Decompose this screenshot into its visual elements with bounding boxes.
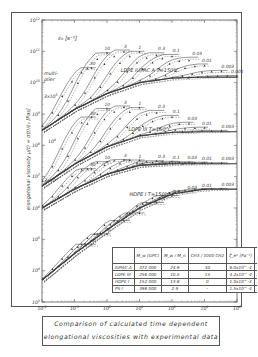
y-axis-label: elongational viscosity μ(t) = σ(t)/ε̇₀ […: [25, 108, 32, 210]
cell-ch3: 0: [188, 278, 227, 285]
strain-rate-label: 10: [105, 227, 111, 232]
cell-ch3: 30: [188, 264, 227, 271]
experimental-point: [104, 118, 106, 120]
cell-zeta: 1.5x10^-4: [227, 285, 255, 292]
calculated-curve-dashed: [44, 112, 166, 188]
experimental-point: [87, 123, 89, 125]
svg-text:107: 107: [32, 173, 41, 179]
cell-mw: 398 000: [134, 285, 161, 292]
strain-rate-label: 0.003: [222, 156, 235, 161]
strain-rate-label: 0.003: [222, 182, 235, 187]
svg-text:104: 104: [233, 305, 241, 311]
strain-rate-label: 10: [105, 155, 111, 160]
strain-rate-label: 0.03: [187, 185, 197, 190]
experimental-point: [71, 132, 73, 134]
experimental-point: [71, 81, 73, 83]
cell-zeta: 1.0x10^-3: [227, 278, 255, 285]
caption-line-2: elongational viscosities with experiment…: [43, 330, 219, 343]
cell-eta: 4.8x10^6: [254, 285, 257, 292]
table-header-ch3: CH3 / 1000 CH2: [188, 248, 227, 264]
strain-rate-label: 30: [90, 61, 96, 66]
cell-mwmn: 13.8: [162, 278, 189, 285]
strain-rate-label: 3: [124, 214, 127, 219]
strain-rate-label: 0.03: [187, 155, 197, 160]
strain-rate-label: 0.1: [173, 155, 180, 160]
strain-rate-label: 1: [139, 206, 142, 211]
caption-line-1: Comparison of calculated time dependent: [43, 317, 219, 330]
panel-label: LDPE IUPAC A T=150°C: [121, 67, 180, 73]
experimental-point: [81, 122, 83, 124]
table-header-row: M_w (GPC) M_w / M_n CH3 / 1000 CH2 ζ_e* …: [113, 248, 258, 264]
experimental-point: [146, 57, 148, 59]
strain-rate-label: 30: [90, 238, 96, 243]
svg-text:10-2: 10-2: [37, 305, 46, 311]
strain-rate-label: 1: [139, 45, 142, 50]
experimental-point: [161, 117, 163, 119]
svg-text:1011: 1011: [30, 48, 40, 54]
multiplier-heading: multi-plier: [43, 71, 58, 82]
experimental-point: [119, 62, 121, 64]
cell-zeta: 6.0x10^-4: [227, 264, 255, 271]
strain-rate-label: 0.1: [173, 189, 180, 194]
experimental-point: [94, 132, 96, 134]
cell-mwmn: 24.9: [162, 264, 189, 271]
multiplier-label: 104: [48, 138, 56, 144]
experimental-point: [123, 106, 125, 108]
experimental-point: [156, 112, 158, 114]
experimental-point: [178, 123, 180, 125]
cell-eta: 2.4x10^5: [254, 271, 257, 278]
experimental-point: [96, 58, 98, 60]
material-properties-table: M_w (GPC) M_w / M_n CH3 / 1000 CH2 ζ_e* …: [112, 247, 257, 293]
cell-ch3: –: [188, 285, 227, 292]
calculated-curve: [42, 64, 208, 130]
table-row: LDPE III 256 000 10.5 15 4.2x10^-4 2.4x1…: [113, 271, 258, 278]
experimental-point: [188, 123, 190, 125]
experimental-point: [171, 116, 173, 118]
experimental-point: [204, 65, 206, 67]
table-header-name: [113, 248, 135, 264]
experimental-point: [113, 55, 115, 57]
table-header-eta: η₀ [Pas]: [254, 248, 257, 264]
svg-text:1010: 1010: [30, 79, 40, 85]
calculated-curve-dashed: [44, 164, 113, 210]
strain-rate-label: 0.3: [158, 196, 165, 201]
calculated-curve-dashed: [44, 246, 98, 281]
strain-rate-label: 1: [139, 101, 142, 106]
table-header-mwmn: M_w / M_n: [162, 248, 189, 264]
experimental-point: [123, 51, 125, 53]
experimental-point: [109, 73, 111, 75]
strain-rate-label: 0.3: [158, 46, 165, 51]
experimental-point: [61, 148, 63, 150]
cell-mw: 152 000: [134, 278, 161, 285]
experimental-point: [96, 113, 98, 115]
strain-rate-label: ε̇₀ [s⁻¹]: [58, 35, 77, 41]
strain-rate-label: 0.03: [187, 116, 197, 121]
calculated-curve: [42, 163, 228, 208]
strain-rate-label: 10: [105, 46, 111, 51]
strain-rate-label: 0.001: [231, 69, 244, 74]
cell-name: LDPE III: [113, 271, 135, 278]
svg-text:10-1: 10-1: [70, 305, 79, 311]
labels-layer: 3010310.30.10.030.010.0030.001LDPE IUPAC…: [43, 44, 244, 264]
experimental-point: [71, 175, 73, 177]
calculated-curve-dashed: [44, 129, 210, 188]
experimental-point: [109, 127, 111, 129]
strain-rate-label: 0.003: [222, 124, 235, 129]
strain-rate-label: 0.3: [158, 154, 165, 159]
experimental-point: [161, 58, 163, 60]
svg-text:103: 103: [32, 299, 40, 305]
strain-rate-label: 10: [105, 102, 111, 107]
table-row: HDPE I 152 000 13.8 0 1.0x10^-3 2.9x10^5: [113, 278, 258, 285]
strain-rate-label: 3: [124, 153, 127, 158]
experimental-point: [226, 75, 228, 77]
cell-mwmn: 2.9: [162, 285, 189, 292]
strain-rate-label: 0.01: [202, 156, 212, 161]
experimental-point: [165, 74, 167, 76]
cell-zeta: 4.2x10^-4: [227, 271, 255, 278]
strain-rate-label: 0.01: [202, 58, 212, 63]
table-row: PS I 398 000 2.9 – 1.5x10^-4 4.8x10^6: [113, 285, 258, 292]
calculated-curve: [42, 162, 111, 208]
experimental-point: [146, 114, 148, 116]
strain-rate-label: 0.1: [173, 48, 180, 53]
experimental-point: [113, 111, 115, 113]
